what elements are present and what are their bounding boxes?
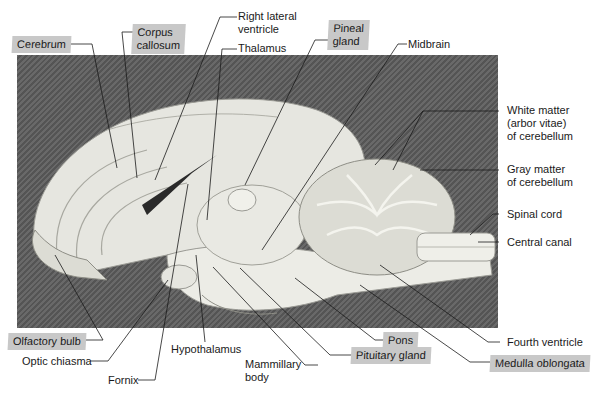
label-fourth-ventricle: Fourth ventricle bbox=[507, 336, 583, 349]
label-gray-matter: Gray matter of cerebellum bbox=[507, 163, 573, 189]
label-pineal-gland-line1: Pineal bbox=[333, 22, 364, 35]
label-white-matter-line3: of cerebellum bbox=[507, 130, 573, 143]
label-mammillary-body-line2: body bbox=[245, 371, 301, 384]
label-right-lateral-ventricle: Right lateral ventricle bbox=[238, 10, 297, 36]
label-spinal-cord: Spinal cord bbox=[507, 208, 562, 221]
label-thalamus: Thalamus bbox=[238, 42, 286, 55]
label-mammillary-body: Mammillary body bbox=[245, 358, 301, 384]
label-right-lateral-ventricle-line2: ventricle bbox=[238, 23, 297, 36]
brain-illustration bbox=[17, 55, 498, 328]
label-white-matter-line1: White matter bbox=[507, 104, 573, 117]
label-right-lateral-ventricle-line1: Right lateral bbox=[238, 10, 297, 23]
label-pineal-gland: Pineal gland bbox=[327, 20, 369, 50]
label-white-matter: White matter (arbor vitae) of cerebellum bbox=[507, 104, 573, 143]
label-hypothalamus: Hypothalamus bbox=[171, 343, 241, 356]
label-pituitary-gland: Pituitary gland bbox=[351, 347, 432, 364]
brain-photo bbox=[17, 55, 498, 328]
label-gray-matter-line2: of cerebellum bbox=[507, 176, 573, 189]
label-mammillary-body-line1: Mammillary bbox=[245, 358, 301, 371]
label-pineal-gland-line2: gland bbox=[332, 35, 363, 48]
label-olfactory-bulb: Olfactory bulb bbox=[8, 333, 87, 350]
label-midbrain: Midbrain bbox=[408, 38, 450, 51]
label-fornix: Fornix bbox=[108, 374, 139, 387]
label-optic-chiasma: Optic chiasma bbox=[22, 355, 92, 368]
label-white-matter-line2: (arbor vitae) bbox=[507, 117, 573, 130]
label-gray-matter-line1: Gray matter bbox=[507, 163, 573, 176]
label-corpus-callosum: Corpus callosum bbox=[131, 24, 186, 54]
label-cerebrum: Cerebrum bbox=[12, 36, 72, 53]
label-medulla-oblongata: Medulla oblongata bbox=[490, 355, 591, 372]
label-corpus-callosum-line1: Corpus bbox=[137, 26, 181, 39]
label-corpus-callosum-line2: callosum bbox=[136, 39, 180, 52]
label-central-canal: Central canal bbox=[507, 236, 572, 249]
